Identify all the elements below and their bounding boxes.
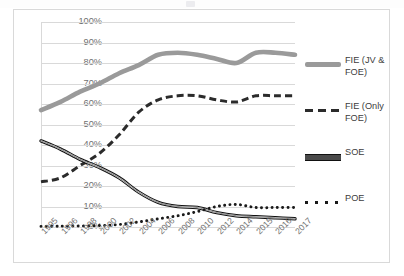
legend-marker-icon <box>305 151 341 161</box>
legend-marker-icon <box>305 105 341 115</box>
series-line-fie-only-foe <box>41 95 295 182</box>
cropped-title-artifact <box>0 0 404 8</box>
legend-marker-icon <box>305 197 341 207</box>
legend-label: FIE (JV & FOE) <box>345 55 397 78</box>
series-line-fie-jv-foe <box>41 52 295 110</box>
legend-item[interactable]: SOE <box>305 147 397 171</box>
legend-label: FIE (Only FOE) <box>345 101 397 124</box>
legend-item[interactable]: FIE (JV & FOE) <box>305 55 397 79</box>
legend-item[interactable]: POE <box>305 193 397 217</box>
thick-solid-line-gray-icon <box>305 62 341 67</box>
legend-label: POE <box>345 193 397 205</box>
legend-item[interactable]: FIE (Only FOE) <box>305 101 397 125</box>
chart-container: 100%90%80%70%60%50%40%30%20%10%0% 199519… <box>0 0 404 276</box>
dotted-line-black-icon <box>305 201 341 204</box>
double-solid-line-black-icon <box>305 154 341 161</box>
legend-label: SOE <box>345 147 397 159</box>
x-axis: 1995199619982000200220042006200820102012… <box>41 229 295 271</box>
chart-legend: FIE (JV & FOE)FIE (Only FOE)SOEPOE <box>305 55 397 239</box>
dashed-line-dark-icon <box>305 109 341 112</box>
legend-marker-icon <box>305 59 341 69</box>
series-layer <box>41 22 295 227</box>
